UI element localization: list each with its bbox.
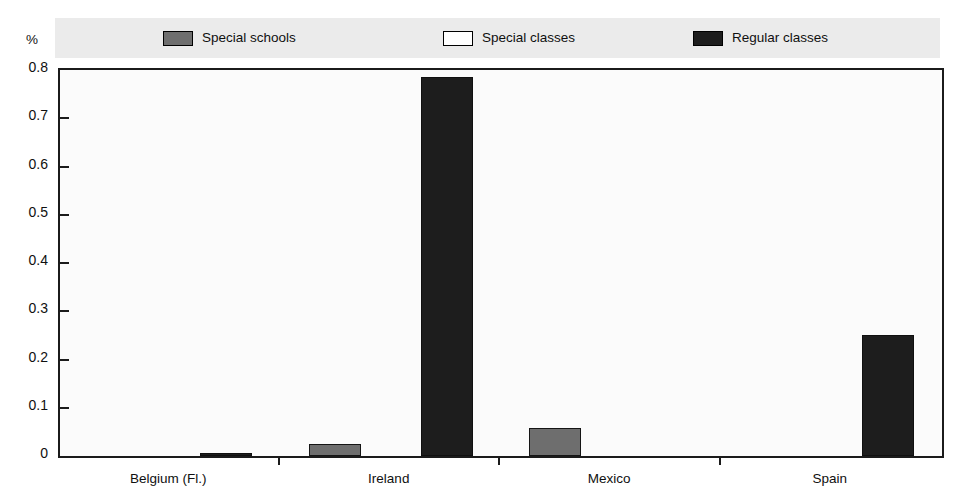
y-axis-tick xyxy=(60,262,69,264)
legend-item-special-classes: Special classes xyxy=(443,26,575,50)
y-axis-tick-label: 0.5 xyxy=(4,205,48,219)
plot-inner xyxy=(60,70,942,456)
y-axis-unit-label: % xyxy=(26,32,38,47)
plot-area xyxy=(58,68,944,458)
bar xyxy=(529,428,581,456)
bar xyxy=(421,77,473,456)
legend-label-special-schools: Special schools xyxy=(202,31,296,45)
y-axis-tick-label: 0.1 xyxy=(4,398,48,412)
y-axis-tick-label: 0.6 xyxy=(4,157,48,171)
bar xyxy=(309,444,361,456)
y-axis-tick xyxy=(60,117,69,119)
legend-item-regular-classes: Regular classes xyxy=(693,26,828,50)
bar-chart-figure: % Special schools Special classes Regula… xyxy=(0,0,953,504)
y-axis-tick-label: 0.8 xyxy=(4,60,48,74)
y-axis-tick-label: 0.7 xyxy=(4,108,48,122)
legend-swatch-special-classes xyxy=(443,31,473,46)
y-axis-tick-label: 0.4 xyxy=(4,253,48,267)
y-axis-tick xyxy=(60,407,69,409)
y-axis-tick-label: 0.3 xyxy=(4,301,48,315)
legend-swatch-regular-classes xyxy=(693,31,723,46)
legend-label-special-classes: Special classes xyxy=(482,31,575,45)
legend-swatch-special-schools xyxy=(163,31,193,46)
y-axis-tick xyxy=(60,166,69,168)
y-axis-tick-label: 0.2 xyxy=(4,350,48,364)
x-axis-tick-label: Mexico xyxy=(588,472,631,486)
x-axis-tick xyxy=(278,456,280,465)
x-axis-tick xyxy=(719,456,721,465)
x-axis-tick-label: Spain xyxy=(812,472,847,486)
bar xyxy=(200,453,252,456)
x-axis-tick xyxy=(498,456,500,465)
y-axis-tick-label: 0 xyxy=(4,446,48,460)
legend-item-special-schools: Special schools xyxy=(163,26,296,50)
x-axis-tick-label: Belgium (Fl.) xyxy=(130,472,207,486)
y-axis-tick xyxy=(60,310,69,312)
y-axis-tick xyxy=(60,359,69,361)
legend-label-regular-classes: Regular classes xyxy=(732,31,828,45)
x-axis-tick-label: Ireland xyxy=(368,472,409,486)
bar xyxy=(862,335,914,456)
y-axis-tick xyxy=(60,214,69,216)
